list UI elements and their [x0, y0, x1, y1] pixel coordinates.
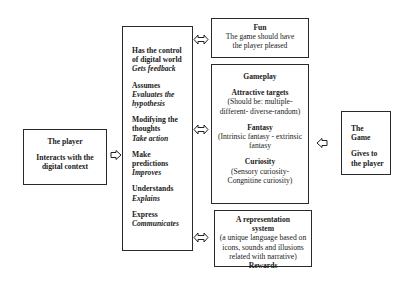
player-actions-box: Has the control of digital world Gets fe… [122, 26, 193, 251]
action-item: Make predictions Improves [132, 150, 188, 178]
action-result: Improves [132, 168, 188, 177]
action-label: Has the control of digital world [132, 46, 188, 64]
action-label: Understands [132, 184, 188, 193]
representation-box: A representation system (a unique langua… [214, 210, 312, 267]
section-heading: Fantasy [215, 123, 305, 132]
player-box: The player Interacts with the digital co… [23, 129, 107, 185]
fun-title: Fun [215, 23, 305, 32]
action-result: Gets feedback [132, 64, 188, 73]
arrow-player-to-middle [110, 150, 122, 160]
double-arrow-middle-gameplay [193, 124, 209, 135]
action-item: Modifying the thoughts Take action [132, 115, 188, 143]
action-item: Has the control of digital world Gets fe… [132, 46, 188, 74]
action-item: Express Communicates [132, 210, 188, 228]
action-result: Communicates [132, 219, 188, 228]
gameplay-section: Fantasy (Intrinsic fantasy - extrinsic f… [215, 123, 305, 151]
player-subtitle: Interacts with the digital context [27, 153, 103, 171]
double-arrow-middle-fun [193, 34, 209, 45]
action-result: Evaluates the hypothesis [132, 90, 182, 108]
action-label: Express [132, 210, 188, 219]
action-label: Make predictions [132, 150, 177, 168]
double-arrow-middle-representation [193, 232, 209, 243]
section-text: (Should be: multiple-different- diverse-… [215, 97, 305, 115]
gameplay-section: Attractive targets (Should be: multiple-… [215, 88, 305, 116]
gameplay-title: Gameplay [215, 72, 305, 81]
action-result: Explains [132, 194, 188, 203]
section-text: (Sensory curiosity-Congnitine curiosity) [215, 167, 305, 185]
representation-text: (a unique language based on icons, sound… [217, 233, 309, 261]
action-label: Modifying the thoughts [132, 115, 182, 133]
action-item: Assumes Evaluates the hypothesis [132, 81, 188, 109]
game-subtitle: Gives to the player [351, 149, 389, 167]
player-title: The player [27, 137, 103, 146]
section-text: (Intrinsic fantasy - extrinsic fantasy [215, 132, 305, 150]
fun-box: Fun The game should have the player plea… [211, 18, 309, 58]
representation-footer: Rewards [217, 261, 309, 270]
arrow-game-to-gameplay [316, 138, 328, 148]
gameplay-box: Gameplay Attractive targets (Should be: … [211, 64, 309, 204]
fun-text: The game should have the player pleased [215, 32, 305, 50]
game-title: The Game [351, 124, 377, 142]
action-item: Understands Explains [132, 184, 188, 202]
section-heading: Attractive targets [215, 88, 305, 97]
action-result: Take action [132, 134, 188, 143]
representation-title: A representation system [217, 215, 309, 233]
gameplay-section: Curiosity (Sensory curiosity-Congnitine … [215, 157, 305, 185]
action-label: Assumes [132, 81, 188, 90]
game-box: The Game Gives to the player [341, 111, 391, 175]
section-heading: Curiosity [215, 157, 305, 166]
